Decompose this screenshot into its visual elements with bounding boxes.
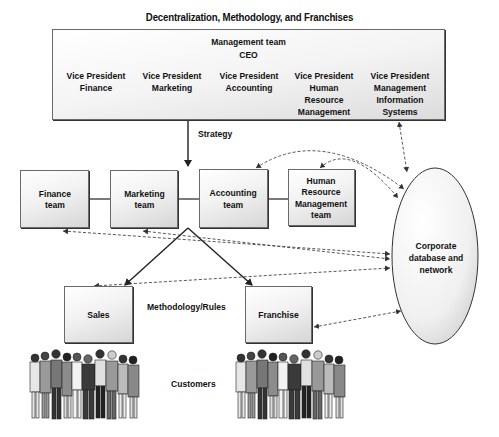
accounting-team-label: Accounting team xyxy=(210,187,257,210)
marketing-team-label: Marketing team xyxy=(124,188,164,211)
vp-finance: Vice President Finance xyxy=(61,70,131,94)
people-crowd-icon xyxy=(234,348,354,423)
vp-human-resource-management: Vice President Human Resource Management xyxy=(289,70,359,118)
sales-label: Sales xyxy=(87,309,109,321)
database-label: Corporate database and network xyxy=(397,240,474,276)
people-crowd-icon xyxy=(28,348,148,423)
franchise-label: Franchise xyxy=(258,309,298,321)
ceo-label: CEO xyxy=(73,48,425,61)
customers-label: Customers xyxy=(171,378,216,389)
hrm-team-label: Human Resource Management team xyxy=(295,175,347,221)
finance-team-label: Finance team xyxy=(38,188,70,211)
vp-management-information-systems: Vice President Management Information Sy… xyxy=(365,70,435,118)
accounting-team-box: Accounting team xyxy=(199,169,268,228)
marketing-team-box: Marketing team xyxy=(110,170,178,228)
franchise-box: Franchise xyxy=(245,286,312,343)
methodology-arrow-sales xyxy=(125,228,188,285)
methodology-label: Methodology/Rules xyxy=(147,301,226,312)
management-heading: Management team CEO xyxy=(73,35,425,61)
strategy-label: Strategy xyxy=(198,128,232,139)
management-team-label: Management team xyxy=(73,35,425,48)
sales-box: Sales xyxy=(64,286,133,343)
hrm-team-box: Human Resource Management team xyxy=(288,169,355,226)
management-team-box: Management team CEO Vice President Finan… xyxy=(52,29,445,120)
finance-team-box: Finance team xyxy=(20,170,89,228)
methodology-arrow-franchise xyxy=(188,228,252,285)
vp-marketing: Vice President Marketing xyxy=(137,70,207,94)
vp-accounting: Vice President Accounting xyxy=(214,70,284,94)
